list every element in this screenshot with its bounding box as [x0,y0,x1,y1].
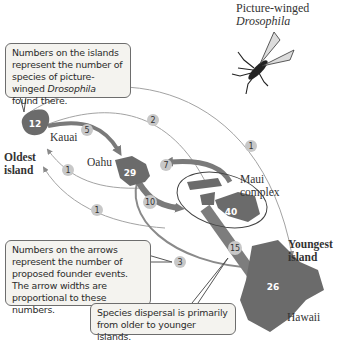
islands-note-callout: Numbers on the islands represent the num… [5,43,131,98]
islands-note-suffix: found there. [12,95,67,106]
oahu-species-count: 29 [124,168,137,178]
svg-text:1: 1 [94,206,99,215]
svg-text:10: 10 [145,198,155,207]
arrow-badge-5: 5 [81,124,93,136]
kauai-species-count: 12 [29,119,42,129]
arrows-note-callout: Numbers on the arrows represent the numb… [5,240,151,306]
maui-label: Maui complex [240,173,280,199]
svg-text:5: 5 [84,126,89,135]
maui-label-line1: Maui [240,173,280,186]
youngest-island-label: Youngest island [288,238,333,264]
arrow-badge-1-mid: 1 [62,164,74,176]
arrow-badge-10: 10 [143,195,157,209]
drosophila-fly-icon [232,32,294,94]
oldest-line2: island [4,164,36,177]
oldest-island-label: Oldest island [4,151,36,177]
oldest-line1: Oldest [4,151,36,164]
youngest-line2: island [288,251,333,264]
arrow-badge-1-top: 1 [245,140,257,152]
svg-text:7: 7 [163,161,168,170]
svg-text:2: 2 [150,116,155,125]
svg-text:3: 3 [177,258,182,267]
maui-species-count: 40 [225,207,238,217]
fly-caption-line2: Drosophila [236,15,309,28]
svg-text:1: 1 [65,166,70,175]
kauai-label: Kauai [50,131,77,143]
arrow-badge-2: 2 [147,114,159,126]
oahu-label: Oahu [87,156,112,168]
islands-note-italic: Drosophila [47,83,95,94]
arrow-badge-15: 15 [228,241,242,255]
hawaii-species-count: 26 [267,282,280,292]
arrow-badge-7: 7 [160,159,172,171]
svg-text:15: 15 [230,244,240,253]
arrow-badge-1-low: 1 [91,204,103,216]
hawaii-label: Hawaii [287,311,320,323]
arrow-badge-3: 3 [174,256,186,268]
youngest-line1: Youngest [288,238,333,251]
dispersal-note-callout: Species dispersal is primarily from olde… [90,303,236,335]
fly-caption: Picture-winged Drosophila [236,2,309,28]
svg-text:1: 1 [248,142,253,151]
maui-label-line2: complex [240,186,280,199]
